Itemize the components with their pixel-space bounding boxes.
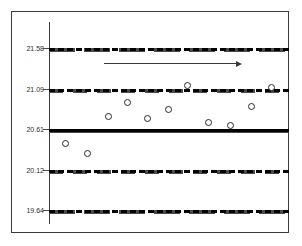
reference-line-upper-control-limit xyxy=(49,48,289,52)
reference-line-center xyxy=(49,129,289,133)
data-point-marker xyxy=(227,122,234,129)
data-point-marker xyxy=(84,150,91,157)
y-axis-spine xyxy=(49,22,50,224)
chart-frame: 21.58 21.09 20.61 20.12 19.64 xyxy=(11,11,289,233)
y-axis-label-20-12: 20.12 xyxy=(12,167,44,174)
trend-arrow-line xyxy=(104,63,237,64)
data-point-marker xyxy=(184,82,191,89)
y-axis-label-21-58: 21.58 xyxy=(12,45,44,52)
y-axis-label-20-61: 20.61 xyxy=(12,126,44,133)
data-point-marker xyxy=(165,106,172,113)
data-point-marker xyxy=(205,119,212,126)
trend-arrow-head-icon xyxy=(236,61,242,67)
data-point-marker xyxy=(144,115,151,122)
y-axis-label-21-09: 21.09 xyxy=(12,86,44,93)
plot-area: 21.58 21.09 20.61 20.12 19.64 xyxy=(12,12,290,234)
data-point-marker xyxy=(248,103,255,110)
data-point-marker xyxy=(62,140,69,147)
reference-line-lower-control-limit xyxy=(49,210,289,214)
data-point-marker xyxy=(268,84,275,91)
y-axis-label-19-64: 19.64 xyxy=(12,207,44,214)
data-point-marker xyxy=(124,99,131,106)
reference-line-lower-warning-limit xyxy=(49,170,289,174)
data-point-marker xyxy=(105,113,112,120)
reference-line-upper-warning-limit xyxy=(49,89,289,93)
